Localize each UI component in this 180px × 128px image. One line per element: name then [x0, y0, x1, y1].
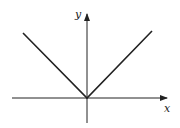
- y-axis-label: y: [74, 8, 82, 21]
- x-axis-label: x: [164, 102, 171, 115]
- absolute-value-graph: y x: [0, 0, 180, 128]
